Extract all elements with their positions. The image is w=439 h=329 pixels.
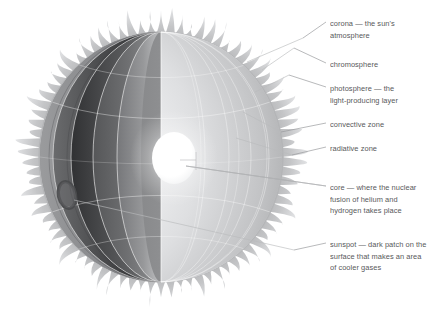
sun-diagram [0, 0, 439, 329]
label-line: surface that makes an area [330, 251, 426, 263]
label-line: of cooler gases [330, 262, 426, 274]
label-line: light-producing layer [330, 95, 398, 107]
label-convective-zone: convective zone [330, 119, 384, 131]
leader-line-chromosphere [294, 48, 326, 63]
label-core: core — where the nuclearfusion of helium… [330, 182, 416, 217]
label-corona: corona — the sun'satmosphere [330, 18, 395, 41]
leader-line-corona [303, 22, 326, 38]
label-line: atmosphere [330, 30, 395, 42]
label-radiative-zone: radiative zone [330, 143, 377, 155]
label-line: photosphere — the [330, 83, 398, 95]
leader-line-sunspot [294, 243, 326, 250]
label-chromosphere: chromosphere [330, 59, 378, 71]
label-line: corona — the sun's [330, 18, 395, 30]
label-line: convective zone [330, 119, 384, 131]
core-sphere [152, 132, 196, 184]
label-photosphere: photosphere — thelight-producing layer [330, 83, 398, 106]
sun-body [40, 32, 282, 282]
label-line: hydrogen takes place [330, 205, 416, 217]
label-line: fusion of helium and [330, 194, 416, 206]
label-line: radiative zone [330, 143, 377, 155]
label-line: chromosphere [330, 59, 378, 71]
label-line: sunspot — dark patch on the [330, 239, 426, 251]
diagram-page: corona — the sun'satmospherechromosphere… [0, 0, 439, 329]
label-line: core — where the nuclear [330, 182, 416, 194]
leader-line-photosphere [289, 75, 326, 87]
label-sunspot: sunspot — dark patch on thesurface that … [330, 239, 426, 274]
